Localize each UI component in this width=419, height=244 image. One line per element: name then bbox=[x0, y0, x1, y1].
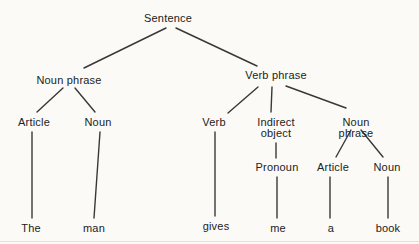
edge-sentence-verb-phrase bbox=[176, 28, 257, 66]
node-article-left: Article bbox=[18, 117, 50, 128]
terminal-man: man bbox=[83, 223, 105, 234]
page-rule-artifact bbox=[0, 241, 419, 242]
terminal-the: The bbox=[21, 223, 41, 234]
edge-verb-phrase-verb bbox=[228, 87, 258, 113]
terminal-gives: gives bbox=[203, 221, 230, 232]
node-verb-phrase: Verb phrase bbox=[245, 70, 307, 81]
terminal-me: me bbox=[270, 223, 286, 234]
edge-noun-phrase-left-article bbox=[37, 88, 63, 112]
node-pronoun: Pronoun bbox=[256, 162, 299, 173]
terminal-a: a bbox=[328, 223, 334, 234]
node-noun-left: Noun bbox=[84, 117, 111, 128]
node-sentence: Sentence bbox=[144, 13, 192, 24]
edge-verb-phrase-indirect-object bbox=[271, 87, 272, 112]
node-noun-phrase-left: Noun phrase bbox=[36, 75, 101, 86]
node-noun-right: Noun bbox=[373, 162, 400, 173]
syntax-tree-figure: Sentence Noun phrase Verb phrase Article… bbox=[0, 0, 419, 244]
node-noun-phrase-right: Noun phrase bbox=[325, 117, 388, 139]
node-article-right: Article bbox=[317, 162, 349, 173]
node-verb: Verb bbox=[202, 117, 225, 128]
edge-noun-left-man bbox=[94, 132, 100, 218]
node-indirect-object: Indirect object bbox=[257, 117, 295, 139]
terminal-book: book bbox=[376, 223, 401, 234]
edge-noun-phrase-left-noun bbox=[75, 88, 95, 112]
edge-sentence-noun-phrase-left bbox=[84, 28, 166, 68]
edge-verb-phrase-noun-phrase-right bbox=[286, 86, 346, 108]
